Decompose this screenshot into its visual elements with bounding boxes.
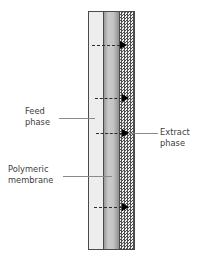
- polymeric-membrane-label: Polymeric membrane: [8, 164, 53, 186]
- feed-phase-leader-line: [59, 118, 95, 119]
- feed-phase-label-line2: phase: [25, 117, 50, 128]
- extract-phase-label-line2: phase: [160, 138, 190, 149]
- polymeric-membrane-leader-line: [63, 176, 112, 177]
- extract-phase-label: Extract phase: [160, 127, 190, 149]
- extract-phase-label-line1: Extract: [160, 127, 190, 138]
- feed-phase-label: Feed phase: [25, 106, 50, 128]
- extract-phase-column: [120, 11, 135, 250]
- polymeric-membrane-label-line1: Polymeric: [8, 164, 53, 175]
- polymeric-membrane-column: [104, 11, 120, 250]
- feed-phase-column: [88, 11, 104, 250]
- polymeric-membrane-label-line2: membrane: [8, 175, 53, 186]
- membrane-diagram-canvas: Feed phase Polymeric membrane Extract ph…: [0, 0, 208, 264]
- feed-phase-label-line1: Feed: [25, 106, 50, 117]
- extract-phase-leader-line: [129, 133, 158, 134]
